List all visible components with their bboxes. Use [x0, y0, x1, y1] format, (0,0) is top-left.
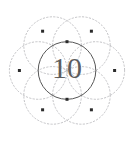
dot-top-left: [41, 30, 44, 33]
dot-top-right: [90, 30, 93, 33]
dot-top-center: [66, 40, 69, 43]
dot-bottom-center: [66, 98, 69, 101]
dot-left: [18, 69, 21, 72]
seed-of-life-diagram: 10: [0, 0, 135, 143]
figure-canvas: 10: [0, 0, 135, 143]
dot-bottom-left: [41, 108, 44, 111]
center-number-label: 10: [52, 51, 82, 84]
dot-right: [113, 69, 116, 72]
dot-bottom-right: [90, 108, 93, 111]
center-label-group: 10: [52, 51, 82, 84]
